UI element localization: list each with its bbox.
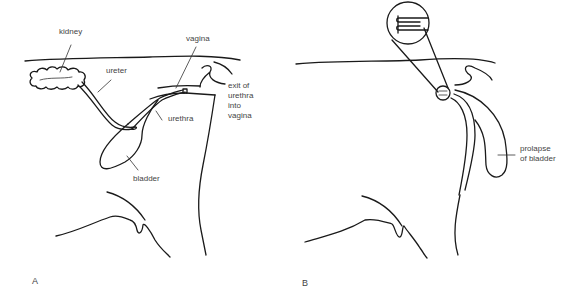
sphincter-circle <box>436 86 450 100</box>
magnified-detail <box>397 18 428 30</box>
label-urethra: urethra <box>168 114 193 124</box>
anatomy-diagram <box>0 0 588 306</box>
urethra-exit-marker <box>183 89 187 93</box>
back-outline <box>25 56 240 61</box>
leg-outline-b <box>305 219 427 258</box>
magnified-view-circle <box>387 2 429 44</box>
label-bladder: bladder <box>133 174 160 184</box>
abdomen-outline <box>199 95 215 255</box>
vagina-outline <box>158 86 200 88</box>
ureter-tube <box>82 82 135 127</box>
label-ureter: ureter <box>106 66 127 76</box>
label-vagina: vagina <box>186 34 210 44</box>
label-kidney: kidney <box>59 27 82 37</box>
prolapse-tube <box>454 94 475 190</box>
prolapsed-bladder <box>455 90 507 177</box>
panel-letter-b: B <box>302 278 308 288</box>
panel-a-drawing <box>25 45 240 257</box>
tail-outline <box>200 66 225 87</box>
panel-b-drawing <box>296 2 515 258</box>
label-exit-of-urethra: exit of urethra into vagina <box>228 81 253 121</box>
label-prolapse-of-bladder: prolapse of bladder <box>520 144 556 164</box>
leg-outline-a <box>56 216 170 257</box>
back-outline-b <box>296 59 495 64</box>
panel-letter-a: A <box>32 276 38 286</box>
